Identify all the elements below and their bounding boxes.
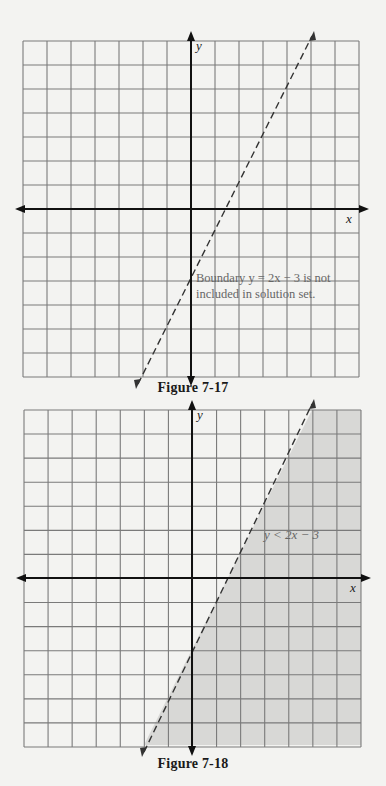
boundary-note-line-1: Boundary y = 2x − 3 is not: [196, 271, 331, 286]
region-inequality-label: y < 2x − 3: [264, 527, 319, 542]
y-axis-label: y: [197, 407, 203, 423]
arrow-left-icon: [16, 574, 26, 582]
arrow-up-icon: [188, 400, 196, 410]
arrow-down-icon: [188, 746, 196, 756]
figure-caption-7-17: Figure 7-17: [0, 380, 386, 396]
arrow-head-icon: [309, 399, 316, 409]
boundary-note-line-2: included in solution set.: [196, 287, 315, 302]
arrow-right-icon: [361, 574, 371, 582]
x-axis-label: x: [346, 211, 352, 227]
y-axis-label: y: [196, 38, 202, 54]
figure-caption-7-18: Figure 7-18: [0, 756, 386, 772]
x-axis-label: x: [350, 580, 356, 596]
